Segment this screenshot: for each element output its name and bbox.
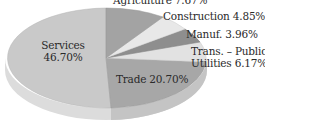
label-agriculture: Agriculture 7.67% [113, 0, 207, 6]
label-trans-utilities-line2: Utilities 6.17% [191, 57, 265, 69]
label-trade: Trade 20.70% [116, 73, 188, 85]
label-services-line1: Services [38, 39, 88, 51]
label-construction: Construction 4.85% [163, 10, 265, 22]
label-manuf: Manuf. 3.96% [186, 28, 258, 40]
label-services-line2: 46.70% [38, 51, 88, 63]
label-trans-utilities-line1: Trans. – Public [191, 45, 265, 57]
